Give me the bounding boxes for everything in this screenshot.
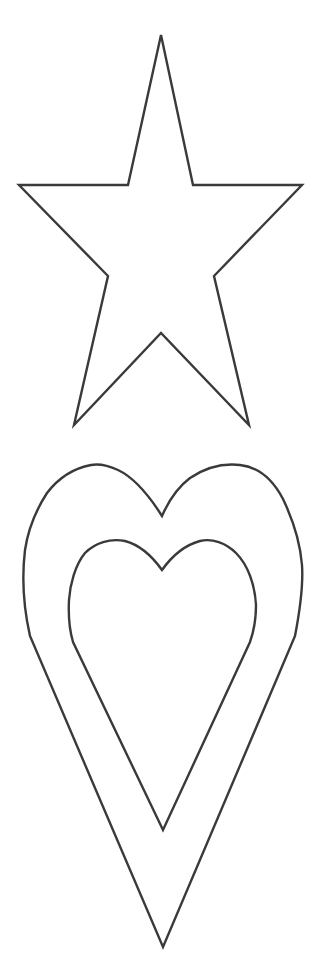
shapes-svg [0, 0, 328, 975]
outer-heart-outline [23, 465, 302, 947]
line-art-canvas [0, 0, 328, 975]
inner-heart-outline [69, 540, 256, 830]
star-outline [19, 35, 302, 425]
